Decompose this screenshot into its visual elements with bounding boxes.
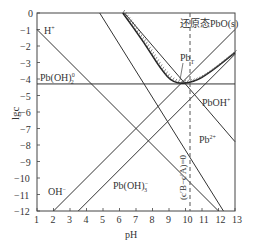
svg-text:−2: −2	[20, 41, 31, 52]
x-axis-label: pH	[125, 229, 137, 240]
svg-text:4: 4	[84, 214, 89, 225]
svg-text:12: 12	[216, 214, 226, 225]
pboh3-label: Pb(OH)−3	[113, 180, 149, 193]
svg-text:1: 1	[34, 214, 39, 225]
svg-text:−1: −1	[20, 25, 31, 36]
line-Pb(OH)3-	[78, 54, 235, 211]
pboh2-label: Pb(OH)02	[40, 72, 75, 85]
svg-text:13: 13	[232, 214, 242, 225]
lgc-ph-chart: H+ Pb(OH)02 OH− Pb(OH)−3 PbOH+ Pb2+ PbT …	[0, 0, 253, 250]
h-label: H+	[44, 25, 55, 36]
svg-text:3: 3	[67, 214, 72, 225]
line-PbOH+	[124, 13, 235, 142]
svg-text:6: 6	[117, 214, 122, 225]
svg-text:10: 10	[183, 214, 193, 225]
svg-text:−8: −8	[20, 140, 31, 151]
svg-text:8: 8	[150, 214, 155, 225]
pboh-label: PbOH+	[202, 97, 231, 108]
svg-text:−11: −11	[14, 190, 29, 201]
svg-text:0: 0	[28, 8, 33, 19]
svg-text:−6: −6	[20, 107, 31, 118]
svg-text:5: 5	[100, 214, 105, 225]
pbo-label: 还原态PbO(s)	[180, 17, 238, 30]
pb2-label: Pb2+	[199, 134, 217, 145]
pbt-label: PbT	[180, 52, 195, 65]
svg-text:−5: −5	[20, 91, 31, 102]
vline-label: (c′B−c′A)=0	[178, 154, 188, 200]
svg-text:−9: −9	[20, 157, 31, 168]
svg-text:−3: −3	[20, 58, 31, 69]
svg-text:2: 2	[51, 214, 56, 225]
oh-label: OH−	[48, 186, 66, 197]
svg-text:11: 11	[199, 214, 209, 225]
svg-text:7: 7	[133, 214, 138, 225]
svg-text:−10: −10	[14, 173, 30, 184]
svg-text:9: 9	[166, 214, 171, 225]
svg-text:−12: −12	[14, 206, 30, 217]
svg-text:−7: −7	[20, 124, 31, 135]
svg-text:−4: −4	[20, 74, 31, 85]
